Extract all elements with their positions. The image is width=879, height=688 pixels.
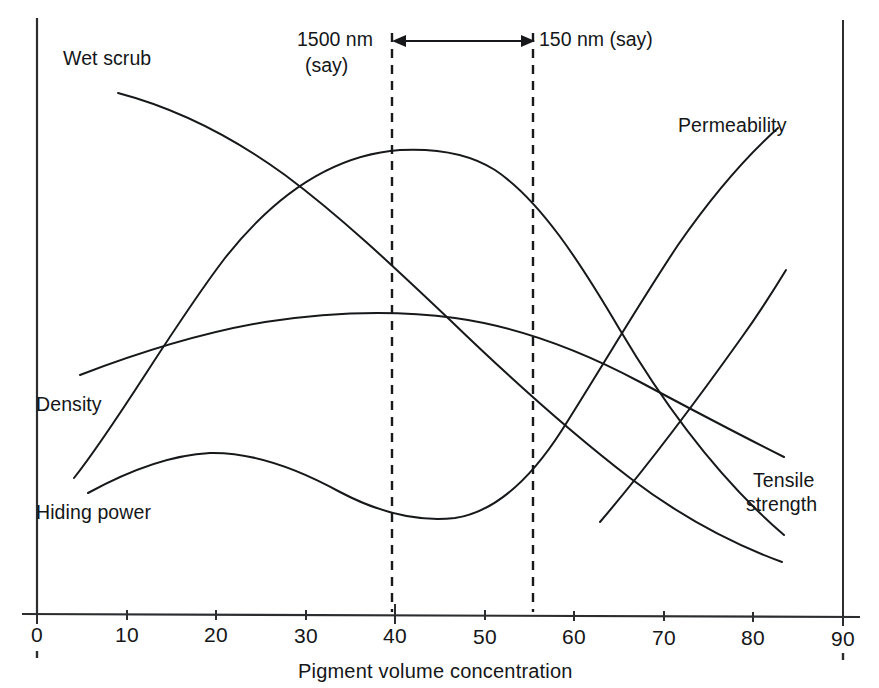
curve-label-wet-scrub: Wet scrub — [63, 46, 151, 70]
annotation-left-1500nm-line1: 1500 nm — [297, 28, 373, 51]
x-tick-label-0: 0 — [15, 623, 59, 647]
x-tick-label-80: 80 — [731, 626, 775, 650]
annotation-right-150nm: 150 nm (say) — [539, 28, 653, 51]
chart-canvas — [0, 0, 879, 688]
x-tick-label-60: 60 — [552, 625, 596, 649]
x-tick-label-30: 30 — [284, 624, 328, 648]
x-tick-label-20: 20 — [194, 623, 238, 647]
x-axis-title: Pigment volume concentration — [298, 660, 573, 683]
curve-label-density: Density — [36, 392, 102, 416]
curve-label-hiding-power: Hiding power — [36, 500, 151, 524]
chart-figure: Wet scrub Density Hiding power Permeabil… — [0, 0, 879, 688]
curve-wet-scrub — [118, 93, 782, 562]
x-axis-subticks — [37, 651, 843, 660]
curve-permeability — [80, 313, 784, 457]
curve-label-tensile-strength-line2: strength — [746, 492, 817, 516]
curve-label-permeability: Permeability — [678, 113, 787, 137]
x-tick-label-90: 90 — [821, 627, 865, 651]
x-tick-label-50: 50 — [463, 625, 507, 649]
annotation-left-1500nm-line2: (say) — [305, 54, 348, 77]
x-tick-label-70: 70 — [642, 626, 686, 650]
range-arrow — [392, 35, 535, 47]
x-tick-label-10: 10 — [105, 623, 149, 647]
x-tick-label-40: 40 — [373, 624, 417, 648]
curve-hiding-power — [88, 128, 778, 519]
curve-label-tensile-strength-line1: Tensile — [753, 468, 814, 492]
x-axis-line — [22, 614, 860, 617]
